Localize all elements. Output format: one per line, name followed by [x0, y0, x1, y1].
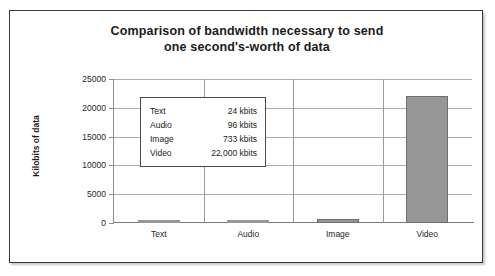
- category-divider: [383, 79, 384, 223]
- y-tick-label: 25000: [82, 74, 106, 84]
- category-divider: [293, 79, 294, 223]
- data-row-value: 96 kbits: [228, 118, 257, 132]
- data-row: Video 22,000 kbits: [150, 146, 257, 160]
- y-tick-label: 15000: [82, 132, 106, 142]
- data-row-label: Audio: [150, 118, 172, 132]
- data-row-label: Image: [150, 132, 174, 146]
- data-row-value: 733 kbits: [223, 132, 257, 146]
- data-row: Audio 96 kbits: [150, 118, 257, 132]
- bar-text: [138, 220, 180, 223]
- y-tick-mark: [109, 108, 114, 109]
- data-row: Image 733 kbits: [150, 132, 257, 146]
- data-row-label: Video: [150, 146, 172, 160]
- bar-video: [406, 96, 448, 223]
- x-tick-label: Video: [416, 229, 438, 239]
- x-tick-label: Text: [151, 229, 167, 239]
- y-tick-mark: [109, 194, 114, 195]
- y-tick-mark: [109, 223, 114, 224]
- chart-figure-frame: Comparison of bandwidth necessary to sen…: [9, 10, 483, 263]
- y-tick-label: 0: [101, 218, 106, 228]
- data-row: Text 24 kbits: [150, 104, 257, 118]
- data-row-value: 24 kbits: [228, 104, 257, 118]
- data-row-label: Text: [150, 104, 166, 118]
- y-tick-mark: [109, 137, 114, 138]
- y-axis-title: Kilobits of data: [31, 91, 41, 201]
- y-tick-label: 20000: [82, 103, 106, 113]
- y-tick-mark: [109, 165, 114, 166]
- data-row-value: 22,000 kbits: [211, 146, 257, 160]
- y-tick-mark: [109, 79, 114, 80]
- chart-title-line-2: one second's-worth of data: [10, 39, 484, 55]
- bar-audio: [227, 220, 269, 223]
- chart-title-line-1: Comparison of bandwidth necessary to sen…: [10, 23, 484, 39]
- y-tick-label: 5000: [87, 189, 106, 199]
- chart-title: Comparison of bandwidth necessary to sen…: [10, 23, 484, 55]
- x-tick-label: Audio: [237, 229, 259, 239]
- x-tick-label: Image: [326, 229, 350, 239]
- bar-image: [317, 219, 359, 223]
- data-annotation-box: Text 24 kbits Audio 96 kbits Image 733 k…: [140, 97, 266, 167]
- y-tick-label: 10000: [82, 160, 106, 170]
